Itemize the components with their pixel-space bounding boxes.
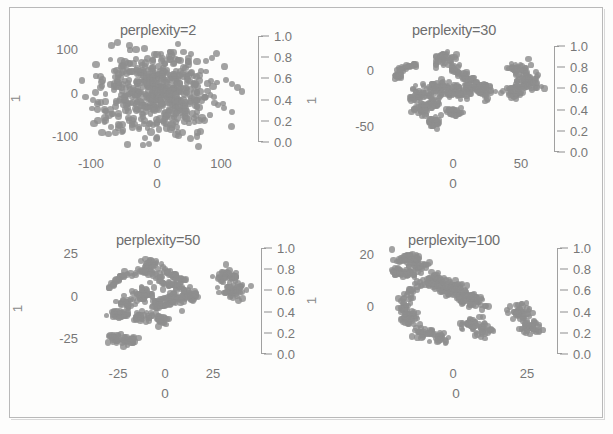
scatter-point <box>94 106 101 113</box>
scatter-plot-area[interactable] <box>370 242 550 362</box>
colorbar-tick <box>557 152 565 153</box>
colorbar-tick-label: 0.2 <box>570 123 588 138</box>
scatter-point <box>119 62 125 68</box>
scatter-point <box>95 99 101 105</box>
scatter-point <box>239 295 246 302</box>
scatter-plot-area[interactable] <box>374 34 549 152</box>
scatter-point <box>434 122 439 127</box>
colorbar-tick-label: 0.0 <box>277 347 295 362</box>
scatter-point <box>531 318 536 323</box>
colorbar-tick-label: 0.6 <box>573 283 591 298</box>
scatter-point <box>433 65 439 71</box>
colorbar-tick <box>560 354 568 355</box>
y-tick-label: -50 <box>328 119 374 134</box>
colorbar-tick <box>557 109 565 110</box>
scatter-point <box>191 96 198 103</box>
x-tick-label: -100 <box>78 156 104 171</box>
scatter-point <box>105 339 111 345</box>
scatter-point <box>422 281 429 288</box>
scatter-point <box>404 303 409 308</box>
scatter-point <box>454 83 460 89</box>
colorbar-tick <box>557 67 565 68</box>
panel-perplexity-50: perplexity=50 1 25 0 -25 -25 0 25 0 1.0 … <box>10 218 306 423</box>
scatter-point <box>140 292 146 298</box>
scatter-point <box>79 77 85 83</box>
scatter-point <box>195 143 202 150</box>
scatter-point <box>519 301 524 306</box>
scatter-point <box>112 74 118 80</box>
scatter-point <box>150 298 156 304</box>
y-tick-label: -25 <box>32 331 78 346</box>
scatter-point <box>144 260 150 266</box>
colorbar-tick <box>261 78 269 79</box>
colorbar-tick-label: 0.4 <box>573 304 591 319</box>
colorbar-tick-label: 0.2 <box>573 325 591 340</box>
scatter-point <box>433 58 438 63</box>
scatter-point <box>163 79 170 86</box>
scatter-point <box>532 76 538 82</box>
x-tick-label: 25 <box>206 366 220 381</box>
scatter-point <box>408 97 415 104</box>
scatter-point <box>536 324 541 329</box>
panel-perplexity-100: perplexity=100 1 20 0 0 25 0 1.0 0.8 0.6… <box>306 218 602 423</box>
scatter-point <box>193 58 200 65</box>
colorbar-tick <box>557 130 565 131</box>
scatter-point <box>191 89 197 95</box>
scatter-point <box>137 317 144 324</box>
colorbar-tick-label: 0.0 <box>573 347 591 362</box>
scatter-point <box>101 114 109 122</box>
scatter-point <box>122 334 129 341</box>
scatter-point <box>460 327 465 332</box>
colorbar-tick-label: 1.0 <box>573 241 591 256</box>
scatter-point <box>141 45 148 52</box>
scatter-point <box>166 53 172 59</box>
y-tick-label: 20 <box>328 247 374 262</box>
scatter-point <box>513 96 519 102</box>
scatter-point <box>162 281 168 287</box>
scatter-point <box>179 308 186 315</box>
scatter-point <box>390 269 396 275</box>
scatter-point <box>176 80 182 86</box>
scatter-point <box>466 304 471 309</box>
x-tick-label: 0 <box>153 156 160 171</box>
colorbar-tick <box>261 36 269 37</box>
scatter-point <box>142 135 148 141</box>
colorbar-tick <box>264 290 272 291</box>
y-axis-label: 1 <box>304 97 319 105</box>
scatter-point <box>507 303 513 309</box>
scatter-point <box>221 105 227 111</box>
scatter-point <box>463 298 469 304</box>
scatter-point <box>132 46 139 53</box>
scatter-point <box>115 110 122 117</box>
scatter-point <box>215 102 221 108</box>
scatter-point <box>482 303 488 309</box>
colorbar-tick <box>264 332 272 333</box>
scatter-point <box>472 302 479 309</box>
scatter-point <box>437 94 443 100</box>
colorbar-tick-label: 0.6 <box>277 283 295 298</box>
scatter-point <box>155 323 162 330</box>
scatter-point <box>175 295 181 301</box>
scatter-point <box>420 108 425 113</box>
scatter-point <box>460 110 465 115</box>
scatter-point <box>207 112 213 118</box>
scatter-point <box>82 94 89 101</box>
scatter-point <box>125 115 131 121</box>
panel-perplexity-2: perplexity=2 1 100 0 -100 -100 0 100 0 1… <box>10 8 306 213</box>
scatter-point <box>170 61 177 68</box>
scatter-plot-area[interactable] <box>70 34 250 152</box>
scatter-point <box>151 284 158 291</box>
colorbar-tick <box>560 311 568 312</box>
scatter-point <box>187 293 192 298</box>
scatter-point <box>123 91 129 97</box>
scatter-point <box>476 321 482 327</box>
colorbar-tick-label: 1.0 <box>274 29 292 44</box>
colorbar-tick <box>261 120 269 121</box>
scatter-point <box>405 290 410 295</box>
scatter-point <box>113 276 120 283</box>
colorbar-tick-label: 0.8 <box>274 50 292 65</box>
scatter-plot-area[interactable] <box>78 244 256 362</box>
scatter-point <box>153 135 160 142</box>
scatter-point <box>443 106 449 112</box>
scatter-point <box>146 317 152 323</box>
